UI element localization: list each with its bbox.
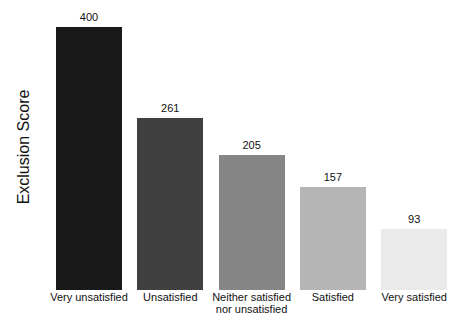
category-label: Very satisfied [369,292,459,304]
bar [219,155,285,290]
bar [300,187,366,290]
category-label: Very unsatisfied [44,292,134,304]
bar-value-label: 157 [300,172,366,183]
category-label: Neither satisfied nor unsatisfied [207,292,297,315]
bar [56,27,122,290]
category-label: Unsatisfied [125,292,215,304]
bar-value-label: 261 [137,103,203,114]
bar-value-label: 93 [381,214,447,225]
bar-value-label: 400 [56,12,122,23]
bar-value-label: 205 [219,140,285,151]
bar-chart-figure: Exclusion Score 400Very unsatisfied261Un… [0,0,460,331]
category-label: Satisfied [288,292,378,304]
bar [137,118,203,290]
y-axis-label: Exclusion Score [15,90,33,205]
bar [381,229,447,290]
